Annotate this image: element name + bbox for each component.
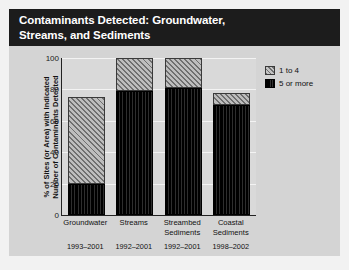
legend-label: 5 or more xyxy=(279,79,313,88)
chart-figure: Contaminants Detected: Groundwater, Stre… xyxy=(9,9,340,256)
y-tick-label: 40 xyxy=(33,148,59,157)
legend-item: 1 to 4 xyxy=(265,66,313,75)
legend-swatch-solid-black xyxy=(265,79,275,88)
bar-groundwater xyxy=(68,97,105,215)
bar-segment-5-or-more xyxy=(213,105,250,215)
x-tick-label-line: Coastal xyxy=(207,218,256,228)
bar-segment-1-to-4 xyxy=(116,58,153,91)
bar-segment-1-to-4 xyxy=(213,93,250,106)
page-title-line-2: Streams, and Sediments xyxy=(19,28,330,43)
gridline xyxy=(62,58,256,59)
bar-streams xyxy=(116,58,153,215)
bar-segment-1-to-4 xyxy=(68,97,105,183)
bar-segment-5-or-more xyxy=(165,88,202,215)
legend-swatch-hatched-gray xyxy=(265,66,275,75)
x-tick-label: StreambedSediments xyxy=(158,218,207,237)
legend-label: 1 to 4 xyxy=(279,66,299,75)
y-tick-label: 100 xyxy=(33,54,59,63)
y-tick-label: 60 xyxy=(33,116,59,125)
bar-segment-5-or-more xyxy=(68,184,105,215)
x-tick-year-range: 1992–2001 xyxy=(158,242,207,251)
plot-area xyxy=(61,58,256,216)
x-tick-label-line: Sediments xyxy=(158,228,207,238)
bar-streambed-sediments xyxy=(165,58,202,215)
bar-segment-1-to-4 xyxy=(165,58,202,88)
x-tick-year-range: 1992–2001 xyxy=(110,242,159,251)
y-tick-label: 80 xyxy=(33,85,59,94)
x-tick-label: CoastalSediments xyxy=(207,218,256,237)
x-tick-year-range: 1998–2002 xyxy=(207,242,256,251)
page-title-line-1: Contaminants Detected: Groundwater, xyxy=(19,13,330,28)
x-tick-label: Streams xyxy=(110,218,159,228)
chart-legend: 1 to 45 or more xyxy=(265,66,313,92)
x-tick-year-range: 1993–2001 xyxy=(61,242,110,251)
y-tick-label: 0 xyxy=(33,211,59,220)
x-tick-label: Groundwater xyxy=(61,218,110,228)
legend-item: 5 or more xyxy=(265,79,313,88)
bar-coastal-sediments xyxy=(213,93,250,215)
y-axis-ticks: 020406080100 xyxy=(31,58,59,215)
chart-title-bar: Contaminants Detected: Groundwater, Stre… xyxy=(9,9,340,46)
bar-segment-5-or-more xyxy=(116,91,153,215)
x-tick-label-line: Groundwater xyxy=(61,218,110,228)
x-axis-labels: Groundwater1993–2001Streams1992–2001Stre… xyxy=(61,218,255,256)
gridline xyxy=(62,89,256,90)
x-tick-label-line: Streams xyxy=(110,218,159,228)
x-tick-label-line: Streambed xyxy=(158,218,207,228)
x-tick-label-line: Sediments xyxy=(207,228,256,238)
y-tick-label: 20 xyxy=(33,179,59,188)
